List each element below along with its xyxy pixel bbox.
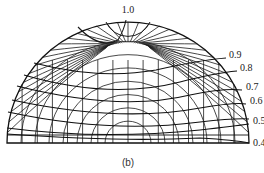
figure-caption: (b) [122, 157, 134, 168]
contour-label-c06: 0.6 [250, 95, 263, 106]
contour-label-c10: 1.0 [122, 4, 135, 15]
contour-label-c08: 0.8 [240, 62, 253, 73]
contour-label-c07: 0.7 [246, 81, 259, 92]
grid-lines [8, 20, 249, 143]
hemisphere-diagram: 1.00.90.80.70.60.50.4 (b) [0, 0, 264, 173]
contour-label-c05: 0.5 [253, 115, 264, 126]
contour-label-c04: 0.4 [253, 137, 264, 148]
contour-label-c09: 0.9 [229, 49, 242, 60]
